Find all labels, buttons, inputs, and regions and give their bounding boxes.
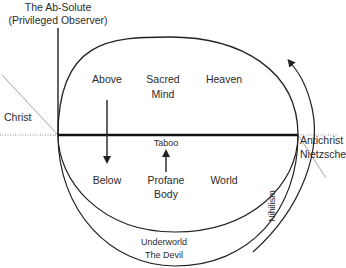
observer-label-line1: The Ab-Solute xyxy=(25,1,92,14)
underworld-label: Underworld xyxy=(141,236,187,249)
nihilism-label: Nihilism xyxy=(266,190,279,222)
above-label: Above xyxy=(92,73,122,86)
antichrist-label: Antichrist xyxy=(300,134,343,147)
sacred-label: Sacred xyxy=(146,73,179,86)
christ-label: Christ xyxy=(4,111,31,124)
body-label: Body xyxy=(154,188,178,201)
profane-label: Profane xyxy=(148,174,185,187)
world-label: World xyxy=(210,174,237,187)
diagonal-line-left xyxy=(2,75,58,135)
taboo-label: Taboo xyxy=(154,137,179,150)
heaven-label: Heaven xyxy=(206,73,242,86)
mind-label: Mind xyxy=(152,88,175,101)
nietzsche-label: Nietzsche xyxy=(300,148,346,161)
observer-label-line2: (Privileged Observer) xyxy=(8,14,107,27)
upper-semicircle xyxy=(58,37,298,135)
below-label: Below xyxy=(93,174,122,187)
devil-label: The Devil xyxy=(145,249,183,262)
